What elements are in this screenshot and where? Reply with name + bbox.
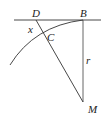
label-b: B: [80, 8, 87, 19]
label-r: r: [86, 55, 90, 66]
label-m: M: [88, 104, 97, 115]
label-d: D: [32, 8, 40, 19]
geometry-diagram: D B x C r M: [0, 0, 105, 117]
label-x: x: [28, 24, 33, 35]
label-c: C: [47, 32, 54, 43]
